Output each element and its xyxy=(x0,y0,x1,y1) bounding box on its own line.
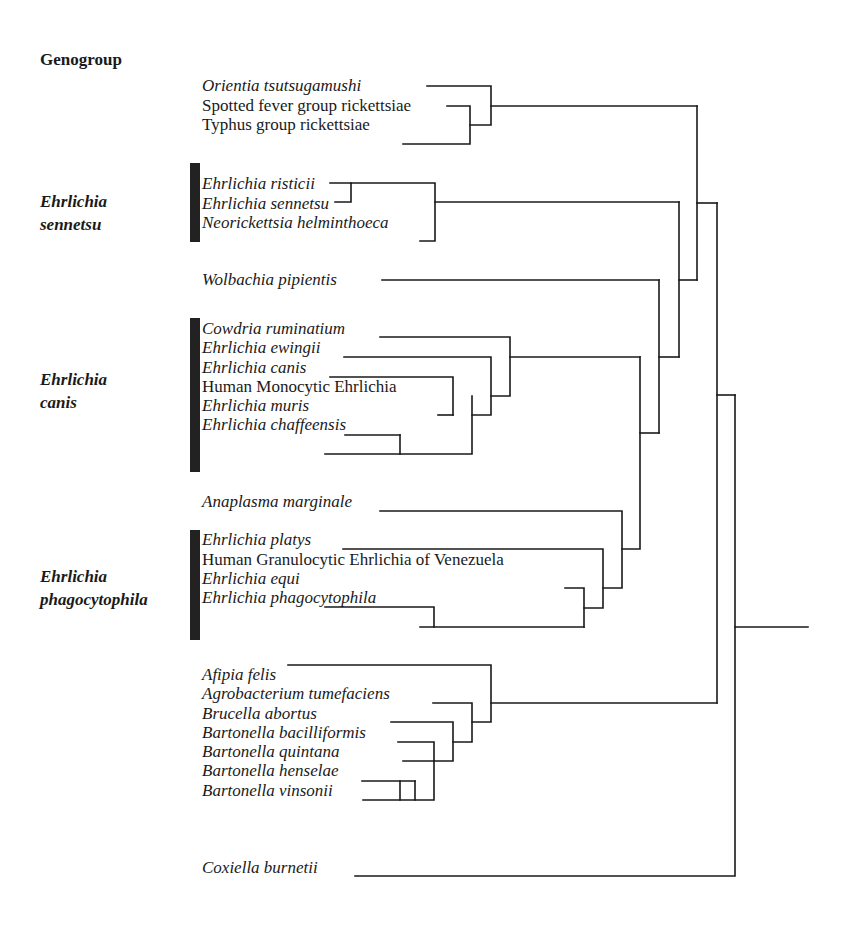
tree-branches xyxy=(0,0,848,928)
